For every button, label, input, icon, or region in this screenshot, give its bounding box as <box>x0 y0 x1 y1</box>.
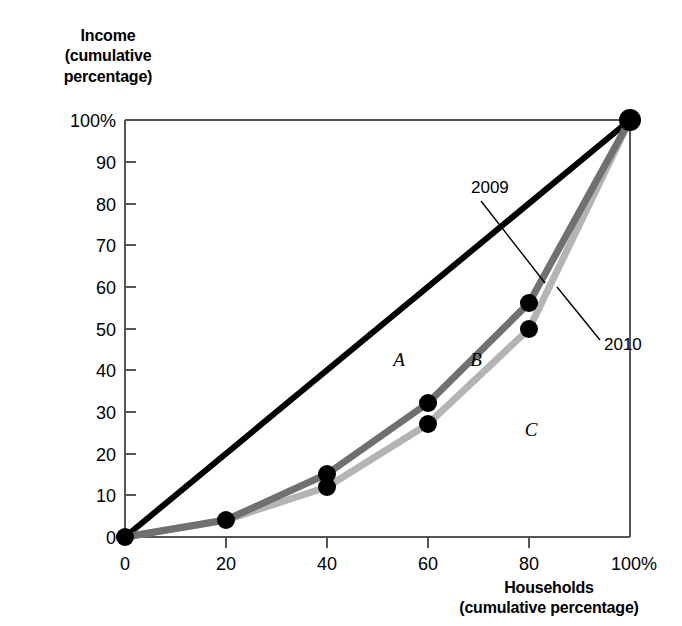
marker-2009-x60 <box>419 394 437 412</box>
x-tick-label-80: 80 <box>519 554 539 574</box>
x-tick-label-60: 60 <box>418 554 438 574</box>
marker-2010-x40 <box>318 478 336 496</box>
region-label-a: A <box>391 349 405 370</box>
y-tick-label-50: 50 <box>96 320 116 340</box>
marker-2010-x60 <box>419 415 437 433</box>
x-tick-label-20: 20 <box>216 554 236 574</box>
region-label-b: B <box>470 349 482 370</box>
marker-2009-x80 <box>520 294 538 312</box>
callout-2010-label: 2010 <box>604 335 642 354</box>
x-axis-ticks <box>226 537 529 548</box>
x-tick-labels: 0 20 40 60 80 100% <box>120 554 657 574</box>
y-tick-label-100: 100% <box>70 111 116 131</box>
marker-endpoint <box>619 109 641 131</box>
x-tick-label-100: 100% <box>611 554 657 574</box>
y-tick-label-10: 10 <box>96 486 116 506</box>
callout-2009-label: 2009 <box>471 178 509 197</box>
marker-2009-x20 <box>217 511 235 529</box>
x-tick-label-40: 40 <box>317 554 337 574</box>
x-tick-label-0: 0 <box>120 554 130 574</box>
y-tick-label-80: 80 <box>96 195 116 215</box>
chart-canvas: 100% 90 80 70 60 50 40 30 20 10 0 0 20 4… <box>0 0 682 626</box>
y-tick-label-0: 0 <box>106 528 116 548</box>
region-label-c: C <box>525 419 538 440</box>
y-tick-label-20: 20 <box>96 445 116 465</box>
y-tick-label-70: 70 <box>96 236 116 256</box>
equality-line <box>125 120 630 537</box>
y-tick-label-40: 40 <box>96 361 116 381</box>
lorenz-curve-figure: Income (cumulative percentage) Household… <box>0 0 682 626</box>
y-tick-label-30: 30 <box>96 403 116 423</box>
y-tick-labels: 100% 90 80 70 60 50 40 30 20 10 0 <box>70 111 116 548</box>
callout-2009: 2009 <box>471 178 545 283</box>
marker-origin <box>116 528 134 546</box>
y-tick-label-60: 60 <box>96 278 116 298</box>
y-tick-label-90: 90 <box>96 153 116 173</box>
marker-2010-x80 <box>520 320 538 338</box>
callout-2010-leader-line <box>557 287 600 340</box>
series-line-of-equality <box>125 120 630 537</box>
y-axis-ticks <box>125 162 136 495</box>
